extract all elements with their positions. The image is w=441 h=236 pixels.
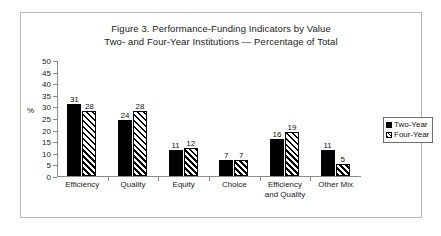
- bar-group: 77: [219, 61, 249, 176]
- bar-two-year: 16: [270, 139, 284, 176]
- chart-legend: Two-YearFour-Year: [383, 117, 433, 143]
- y-axis-tick-label: 45: [42, 68, 51, 77]
- y-axis-tick-label: 0: [47, 173, 51, 182]
- bar-value-label: 28: [85, 102, 94, 111]
- y-axis-tick: [53, 96, 57, 97]
- legend-item[interactable]: Two-Year: [386, 120, 429, 130]
- x-axis-category-label: Quality: [121, 180, 146, 190]
- bar-two-year: 24: [118, 120, 132, 176]
- bar-group: 3128: [67, 61, 97, 176]
- bar-two-year: 11: [321, 150, 335, 176]
- bar-value-label: 11: [172, 141, 180, 150]
- chart-title: Figure 3. Performance-Funding Indicators…: [21, 22, 421, 48]
- y-axis-tick-label: 15: [42, 138, 51, 147]
- y-axis-tick: [53, 165, 57, 166]
- plot-area: 05101520253035404550 % 31282428111277161…: [57, 61, 361, 177]
- x-axis-tick: [209, 177, 210, 181]
- bar-value-label: 19: [288, 123, 297, 132]
- bar-two-year: 7: [219, 160, 233, 176]
- y-axis-tick-label: 50: [42, 57, 51, 66]
- y-axis-tick: [53, 107, 57, 108]
- bar-two-year: 11: [169, 150, 183, 176]
- y-axis-tick: [53, 119, 57, 120]
- y-axis-tick: [53, 154, 57, 155]
- y-axis-unit-label: %: [27, 106, 34, 115]
- bar-value-label: 28: [136, 102, 145, 111]
- y-axis-tick: [53, 177, 57, 178]
- y-axis-tick: [53, 73, 57, 74]
- bar-value-label: 24: [121, 111, 130, 120]
- x-axis-tick: [158, 177, 159, 181]
- y-axis-tick-label: 35: [42, 91, 51, 100]
- bar-four-year: 5: [336, 164, 350, 176]
- y-axis-tick-label: 30: [42, 103, 51, 112]
- x-axis-category-label: Efficiency: [65, 180, 99, 190]
- x-axis-tick: [108, 177, 109, 181]
- bar-value-label: 5: [340, 155, 344, 164]
- bar-group: 1619: [270, 61, 300, 176]
- diagonal-hatch-square-icon: [386, 132, 392, 138]
- y-axis-tick: [53, 84, 57, 85]
- chart-title-line-1: Figure 3. Performance-Funding Indicators…: [21, 22, 421, 35]
- x-axis-category-label: Efficiencyand Quality: [265, 180, 305, 199]
- y-axis-tick-label: 20: [42, 126, 51, 135]
- bar-value-label: 16: [273, 130, 282, 139]
- bar-value-label: 7: [224, 151, 228, 160]
- bar-group: 115: [321, 61, 351, 176]
- x-axis-category-label: Other Mix: [318, 180, 353, 190]
- x-axis-category-label: Equity: [173, 180, 195, 190]
- bar-four-year: 12: [184, 148, 198, 176]
- y-axis-tick-label: 25: [42, 115, 51, 124]
- solid-black-square-icon: [386, 122, 392, 128]
- chart-title-line-2: Two- and Four-Year Institutions — Percen…: [21, 35, 421, 48]
- y-axis-tick: [53, 131, 57, 132]
- x-axis-category-label: Choice: [222, 180, 247, 190]
- bar-four-year: 28: [133, 111, 147, 176]
- y-axis-tick-label: 40: [42, 80, 51, 89]
- bar-value-label: 31: [70, 95, 79, 104]
- y-axis-tick-label: 5: [47, 161, 51, 170]
- y-axis-tick-label: 10: [42, 149, 51, 158]
- bar-two-year: 31: [67, 104, 81, 176]
- bar-four-year: 7: [234, 160, 248, 176]
- legend-item[interactable]: Four-Year: [386, 130, 429, 140]
- bar-group: 1112: [169, 61, 199, 176]
- bar-four-year: 28: [82, 111, 96, 176]
- bar-four-year: 19: [285, 132, 299, 176]
- y-axis-tick: [53, 61, 57, 62]
- y-axis-line: [57, 61, 58, 177]
- bar-value-label: 11: [324, 141, 332, 150]
- bar-value-label: 7: [239, 151, 243, 160]
- bar-value-label: 12: [186, 139, 195, 148]
- y-axis-tick: [53, 142, 57, 143]
- x-axis-tick: [310, 177, 311, 181]
- bar-group: 2428: [118, 61, 148, 176]
- x-axis-tick: [260, 177, 261, 181]
- legend-item-label: Four-Year: [394, 130, 429, 140]
- legend-item-label: Two-Year: [394, 120, 428, 130]
- figure-frame: Figure 3. Performance-Funding Indicators…: [20, 12, 422, 218]
